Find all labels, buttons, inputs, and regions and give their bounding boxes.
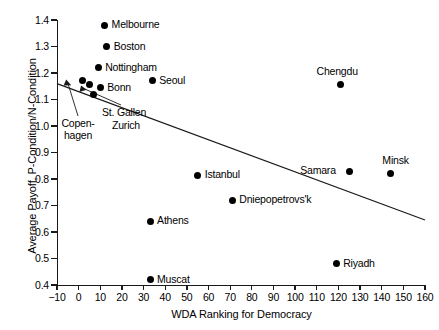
data-point[interactable]	[97, 84, 104, 91]
annotation-copenhagen-line2: hagen	[64, 129, 92, 141]
data-point-label: Muscat	[157, 274, 190, 286]
data-point-label: Samara	[300, 165, 336, 177]
data-point-label: Athens	[157, 215, 189, 227]
data-point[interactable]	[387, 170, 394, 177]
y-axis-title: Average Payoff, P-Condition/N-Condition	[26, 36, 38, 276]
data-point-label: Boston	[114, 41, 146, 53]
annotation-zurich: Zurich	[112, 120, 140, 132]
data-point[interactable]	[194, 172, 201, 179]
annotation-copenhagen-line1: Copen-	[61, 117, 94, 129]
data-point[interactable]	[95, 64, 102, 71]
annotation-leader-lines	[0, 0, 439, 330]
leader-line-copenhagen	[68, 82, 79, 116]
data-point-label: Chengdu	[317, 66, 358, 78]
data-point[interactable]	[147, 276, 154, 283]
data-point[interactable]	[346, 168, 353, 175]
data-point[interactable]	[229, 197, 236, 204]
data-point[interactable]	[333, 260, 340, 267]
data-point[interactable]	[147, 218, 154, 225]
data-point-label: Melbourne	[112, 19, 160, 31]
data-point[interactable]	[90, 91, 97, 98]
x-axis-title: WDA Ranking for Democracy	[57, 308, 426, 320]
scatter-plot-figure: 0.40.50.60.70.80.91.01.11.21.31.4 −10010…	[0, 0, 439, 330]
data-point-label: Dniepopetrovs'k	[239, 194, 311, 206]
data-point-label: Bonn	[107, 82, 131, 94]
arrowhead-copenhagen	[64, 80, 72, 86]
data-point[interactable]	[101, 22, 108, 29]
data-point-label: Seoul	[159, 75, 185, 87]
annotation-st-gallen: St. Gallen	[102, 107, 146, 119]
arrowhead-stgallen	[79, 86, 86, 92]
data-point-label: Minsk	[382, 155, 408, 167]
data-point-label: Riyadh	[343, 258, 374, 270]
data-point-label: Istanbul	[205, 169, 240, 181]
data-point-label: Nottingham	[105, 62, 157, 74]
annotation-copenhagen: Copen- hagen	[51, 118, 105, 141]
